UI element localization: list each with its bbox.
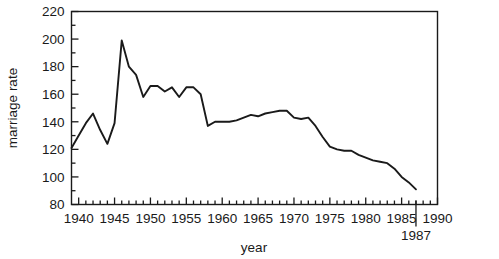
x-axis-tick-labels: 1940194519501955196019651970197519801985… — [64, 211, 453, 226]
annotation-label: 1987 — [401, 228, 431, 243]
y-tick-label: 180 — [42, 59, 65, 74]
x-tick-label: 1965 — [243, 211, 273, 226]
x-axis-title: year — [241, 240, 268, 255]
marriage-rate-line-chart: 80100120140160180200220 1940194519501955… — [0, 0, 499, 259]
y-axis-ticks — [72, 12, 79, 205]
y-tick-label: 120 — [42, 142, 65, 157]
x-tick-label: 1960 — [207, 211, 237, 226]
x-tick-label: 1940 — [64, 211, 94, 226]
x-axis-ticks — [79, 198, 438, 205]
y-tick-label: 100 — [42, 170, 65, 185]
figure-container: 80100120140160180200220 1940194519501955… — [0, 0, 499, 259]
y-axis-tick-labels: 80100120140160180200220 — [42, 4, 65, 212]
y-axis-title: marriage rate — [5, 68, 20, 148]
axis-frame — [72, 12, 438, 205]
x-tick-label: 1945 — [100, 211, 130, 226]
y-tick-label: 80 — [49, 197, 64, 212]
y-tick-label: 140 — [42, 115, 65, 130]
x-tick-label: 1955 — [171, 211, 201, 226]
y-tick-label: 160 — [42, 87, 65, 102]
x-tick-label: 1985 — [387, 211, 417, 226]
data-series-line — [72, 40, 416, 189]
x-tick-label: 1990 — [422, 211, 452, 226]
x-tick-label: 1950 — [135, 211, 165, 226]
x-tick-label: 1980 — [351, 211, 381, 226]
y-tick-label: 220 — [42, 4, 65, 19]
plot-border — [72, 12, 438, 205]
x-tick-label: 1975 — [315, 211, 345, 226]
y-tick-label: 200 — [42, 32, 65, 47]
x-tick-label: 1970 — [279, 211, 309, 226]
